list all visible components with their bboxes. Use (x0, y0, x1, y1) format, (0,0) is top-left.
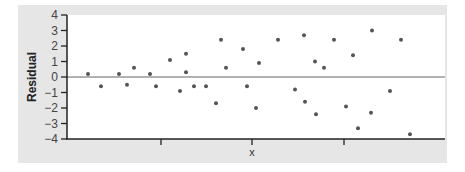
data-point (369, 111, 373, 115)
y-tick-label: 4 (51, 8, 58, 22)
data-point (214, 101, 218, 105)
x-axis-title: x (249, 146, 255, 158)
data-point (254, 106, 258, 110)
data-point (148, 72, 152, 76)
data-point (219, 38, 223, 42)
data-point (302, 33, 306, 37)
data-point (224, 66, 228, 70)
data-point (241, 47, 245, 51)
data-point (356, 126, 360, 130)
data-point (313, 60, 317, 64)
y-tick-label: 2 (51, 39, 58, 53)
data-point (332, 38, 336, 42)
data-point (351, 53, 355, 57)
data-point (99, 84, 103, 88)
data-point (154, 84, 158, 88)
data-point (293, 87, 297, 91)
data-point (184, 70, 188, 74)
data-point (132, 66, 136, 70)
x-axis-ticks (161, 139, 344, 145)
y-tick-label: −3 (44, 117, 58, 131)
data-point (204, 84, 208, 88)
data-point (184, 52, 188, 56)
data-point (344, 104, 348, 108)
data-point (399, 38, 403, 42)
y-tick-label: 3 (51, 24, 58, 38)
data-point (245, 84, 249, 88)
y-tick-label: −4 (44, 132, 58, 146)
y-axis-title: Residual (25, 52, 39, 102)
data-point (125, 83, 129, 87)
data-point (408, 132, 412, 136)
data-point (168, 58, 172, 62)
residual-plot: 43210−1−2−3−4 Residual x (0, 0, 465, 172)
data-point (178, 89, 182, 93)
data-point (322, 66, 326, 70)
y-tick-label: −1 (44, 86, 58, 100)
y-tick-label: −2 (44, 101, 58, 115)
data-point (303, 100, 307, 104)
data-point (388, 89, 392, 93)
y-tick-label: 0 (51, 70, 58, 84)
data-point (314, 112, 318, 116)
y-tick-label: 1 (51, 55, 58, 69)
data-point (117, 72, 121, 76)
y-axis-ticks: 43210−1−2−3−4 (44, 8, 67, 146)
data-point (276, 38, 280, 42)
data-point (370, 29, 374, 33)
data-point (192, 84, 196, 88)
data-point (257, 61, 261, 65)
data-point (86, 72, 90, 76)
